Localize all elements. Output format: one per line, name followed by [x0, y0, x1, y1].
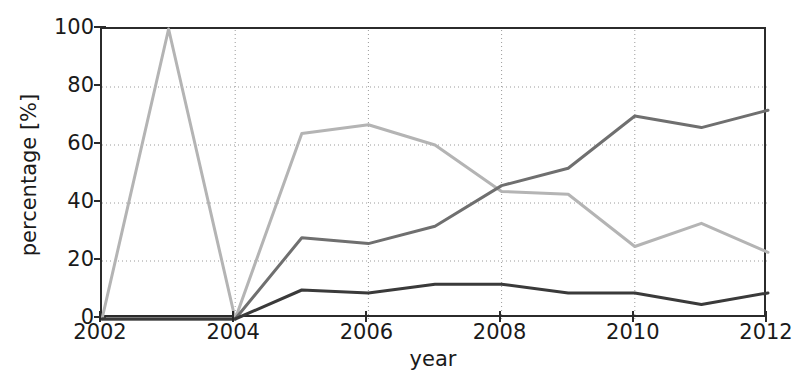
x-tick-label: 2008 [460, 320, 540, 344]
x-tick-label: 2010 [593, 320, 673, 344]
data-series-layer [102, 29, 768, 319]
x-tick-mark [499, 311, 501, 322]
x-tick-mark [232, 311, 234, 322]
y-tick-label: 40 [34, 189, 94, 213]
data-line-series-medium [102, 110, 768, 319]
y-tick-label: 80 [34, 73, 94, 97]
x-tick-label: 2006 [326, 320, 406, 344]
y-tick-label: 60 [34, 131, 94, 155]
plot-area [100, 27, 766, 317]
x-tick-label: 2004 [193, 320, 273, 344]
y-tick-label: 20 [34, 247, 94, 271]
x-tick-label: 2012 [726, 320, 806, 344]
data-line-series-dark [102, 284, 768, 319]
y-axis-label: percentage [%] [10, 10, 48, 340]
x-tick-mark [99, 311, 101, 322]
x-tick-mark [765, 311, 767, 322]
data-line-series-light [102, 29, 768, 319]
x-tick-mark [632, 311, 634, 322]
line-chart-figure: percentage [%] 020406080100 200220042006… [0, 0, 812, 378]
x-tick-mark [365, 311, 367, 322]
x-axis-label: year [100, 347, 766, 371]
x-tick-label: 2002 [60, 320, 140, 344]
y-tick-label: 100 [34, 15, 94, 39]
plot-svg [100, 27, 770, 321]
